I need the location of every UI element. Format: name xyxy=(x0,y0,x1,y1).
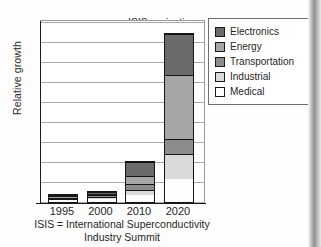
legend-swatch-transportation xyxy=(215,57,225,67)
legend-label-medical: Medical xyxy=(230,87,264,97)
bar-segment-medical xyxy=(126,195,154,202)
legend-item: Electronics xyxy=(215,24,307,39)
bar-segment-energy xyxy=(126,176,154,184)
legend-label-industrial: Industrial xyxy=(230,72,271,82)
legend-label-transportation: Transportation xyxy=(230,57,294,67)
bar-segment-medical xyxy=(49,200,77,201)
legend-item: Industrial xyxy=(215,69,307,84)
bar-segment-electronics xyxy=(165,34,193,75)
legend: Electronics Energy Transportation Indust… xyxy=(208,18,312,105)
bar-segment-electronics xyxy=(126,162,154,176)
legend-item: Transportation xyxy=(215,54,307,69)
legend-label-energy: Energy xyxy=(230,42,262,52)
bar-2020 xyxy=(164,33,194,203)
bar-2010 xyxy=(125,161,155,202)
legend-swatch-electronics xyxy=(215,27,225,37)
plot-frame-right xyxy=(204,20,205,203)
x-axis-line xyxy=(36,203,206,205)
bar-segment-energy xyxy=(165,75,193,139)
bar-segment-industrial xyxy=(165,154,193,179)
legend-swatch-industrial xyxy=(215,72,225,82)
caption-line-1: ISIS = International Superconductivity xyxy=(12,218,232,231)
bar-segment-medical xyxy=(88,199,116,202)
legend-item: Medical xyxy=(215,84,307,99)
gridline xyxy=(41,22,205,23)
figure-caption: ISIS = International Superconductivity I… xyxy=(12,218,232,244)
legend-label-electronics: Electronics xyxy=(230,27,279,37)
legend-swatch-medical xyxy=(215,87,225,97)
legend-item: Energy xyxy=(215,39,307,54)
y-axis-label: Relative growth xyxy=(11,18,23,138)
x-tick-2020: 2020 xyxy=(155,205,201,217)
bar-1995 xyxy=(48,194,78,202)
caption-line-2: Industry Summit xyxy=(12,231,232,244)
bar-segment-medical xyxy=(165,179,193,202)
plot-frame-top xyxy=(40,20,205,21)
bar-segment-transportation xyxy=(165,139,193,154)
bar-2000 xyxy=(87,191,117,203)
legend-swatch-energy xyxy=(215,42,225,52)
figure: ISIS projection Relative growth 19952000… xyxy=(0,0,321,247)
page-gutter-shadow xyxy=(308,0,321,247)
